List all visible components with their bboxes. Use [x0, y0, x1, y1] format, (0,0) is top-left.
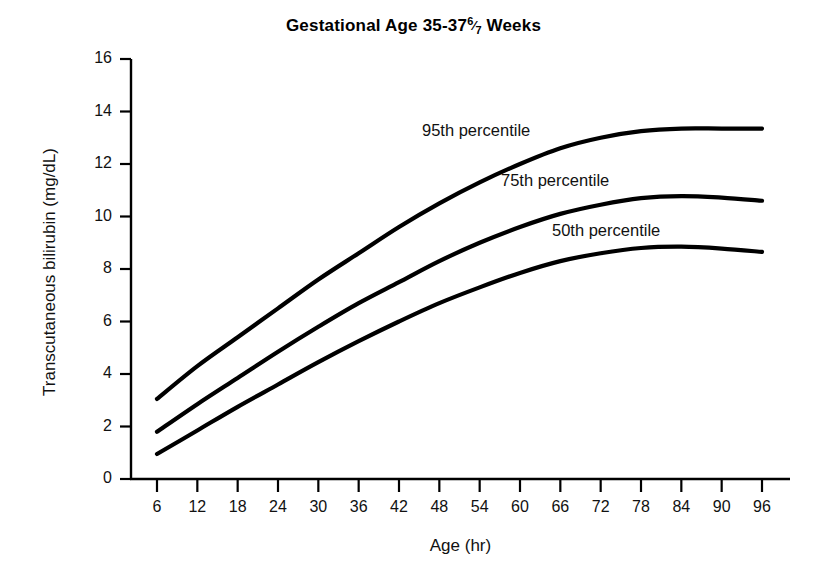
y-tick-label: 16 — [72, 49, 112, 67]
y-tick-label: 6 — [72, 312, 112, 330]
curve-label-95th-percentile: 95th percentile — [422, 121, 530, 140]
y-tick-label: 14 — [72, 102, 112, 120]
x-tick-label: 96 — [742, 498, 782, 516]
x-tick-label: 60 — [500, 498, 540, 516]
percentile-curve-95th-percentile — [157, 128, 762, 399]
y-tick-label: 10 — [72, 207, 112, 225]
y-tick-label: 8 — [72, 259, 112, 277]
x-tick-label: 84 — [661, 498, 701, 516]
curve-label-50th-percentile: 50th percentile — [552, 221, 660, 240]
x-tick-label: 6 — [137, 498, 177, 516]
x-tick-label: 48 — [419, 498, 459, 516]
x-tick-label: 12 — [177, 498, 217, 516]
x-tick-label: 18 — [218, 498, 258, 516]
plot-area — [0, 0, 827, 581]
chart-figure: Gestational Age 35-376⁄7 Weeks 024681012… — [0, 0, 827, 581]
y-tick-label: 12 — [72, 154, 112, 172]
x-tick-label: 42 — [379, 498, 419, 516]
x-tick-label: 36 — [339, 498, 379, 516]
x-tick-label: 30 — [298, 498, 338, 516]
curve-label-75th-percentile: 75th percentile — [501, 171, 609, 190]
y-tick-label: 4 — [72, 364, 112, 382]
y-tick-label: 0 — [72, 469, 112, 487]
percentile-curves — [157, 128, 762, 454]
x-tick-label: 54 — [460, 498, 500, 516]
percentile-curve-75th-percentile — [157, 196, 762, 432]
x-tick-label: 78 — [621, 498, 661, 516]
y-tick-label: 2 — [72, 417, 112, 435]
x-tick-label: 24 — [258, 498, 298, 516]
x-tick-label: 66 — [540, 498, 580, 516]
x-axis-title: Age (hr) — [131, 536, 790, 556]
y-axis-ticks — [120, 59, 131, 479]
x-tick-label: 90 — [702, 498, 742, 516]
y-axis-title: Transcutaneous bilirubin (mg/dL) — [40, 62, 60, 482]
x-axis-ticks — [157, 479, 762, 492]
percentile-curve-50th-percentile — [157, 247, 762, 454]
x-tick-label: 72 — [581, 498, 621, 516]
